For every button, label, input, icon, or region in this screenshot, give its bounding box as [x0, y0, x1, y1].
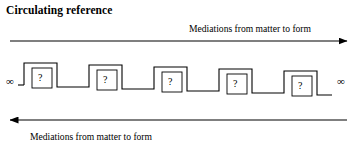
staircase-path	[24, 63, 332, 95]
step-question-mark: ?	[233, 79, 237, 89]
diagram-canvas	[0, 0, 357, 157]
step-question-mark: ?	[298, 81, 302, 91]
step-question-mark: ?	[103, 75, 107, 85]
step-question-mark: ?	[168, 77, 172, 87]
step-question-mark: ?	[38, 73, 42, 83]
circulating-reference-figure: Circulating reference Mediations from ma…	[0, 0, 357, 157]
staircase-path-group	[18, 63, 332, 95]
